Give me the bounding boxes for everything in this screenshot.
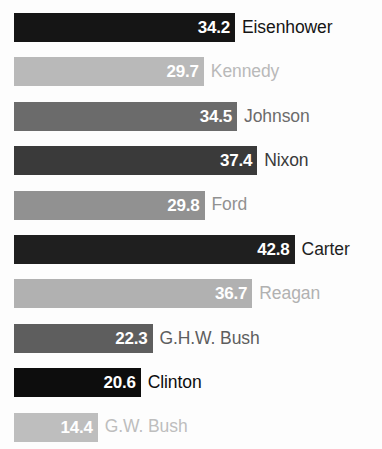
bar: 29.7	[14, 57, 204, 86]
bar-category-label: G.H.W. Bush	[160, 324, 260, 353]
bar-value-label: 20.6	[103, 374, 135, 391]
bar: 37.4	[14, 146, 257, 175]
bar-category-label: Eisenhower	[242, 13, 332, 42]
bar-value-label: 29.7	[167, 63, 199, 80]
bar-value-label: 14.4	[60, 419, 92, 436]
bar-value-label: 22.3	[115, 330, 147, 347]
bar: 42.8	[14, 235, 295, 264]
bar-row: 29.8Ford	[0, 191, 382, 220]
bar-value-label: 36.7	[215, 285, 247, 302]
bar-category-label: Clinton	[148, 368, 202, 397]
bar-category-label: Nixon	[264, 146, 308, 175]
bar-row: 42.8Carter	[0, 235, 382, 264]
bar-value-label: 34.2	[198, 19, 230, 36]
bar-value-label: 29.8	[167, 197, 199, 214]
bar: 29.8	[14, 191, 205, 220]
bar: 14.4	[14, 413, 98, 442]
bar-category-label: G.W. Bush	[105, 413, 188, 442]
horizontal-bar-chart: 34.2Eisenhower29.7Kennedy34.5Johnson37.4…	[0, 0, 382, 449]
bar: 34.5	[14, 102, 237, 131]
bar: 22.3	[14, 324, 153, 353]
bar-category-label: Carter	[302, 235, 350, 264]
bar: 20.6	[14, 368, 141, 397]
bar-category-label: Kennedy	[211, 57, 279, 86]
bar-row: 14.4G.W. Bush	[0, 413, 382, 442]
bar-category-label: Reagan	[259, 279, 320, 308]
bar-category-label: Ford	[212, 191, 248, 220]
bar-value-label: 37.4	[220, 152, 252, 169]
bar-row: 36.7Reagan	[0, 279, 382, 308]
bar-value-label: 34.5	[200, 108, 232, 125]
bar-row: 29.7Kennedy	[0, 57, 382, 86]
bar-value-label: 42.8	[257, 241, 289, 258]
bar-category-label: Johnson	[244, 102, 309, 131]
bar: 36.7	[14, 279, 252, 308]
bar-row: 20.6Clinton	[0, 368, 382, 397]
bar-row: 34.5Johnson	[0, 102, 382, 131]
bar-row: 34.2Eisenhower	[0, 13, 382, 42]
bar-row: 37.4Nixon	[0, 146, 382, 175]
bar: 34.2	[14, 13, 235, 42]
bar-row: 22.3G.H.W. Bush	[0, 324, 382, 353]
